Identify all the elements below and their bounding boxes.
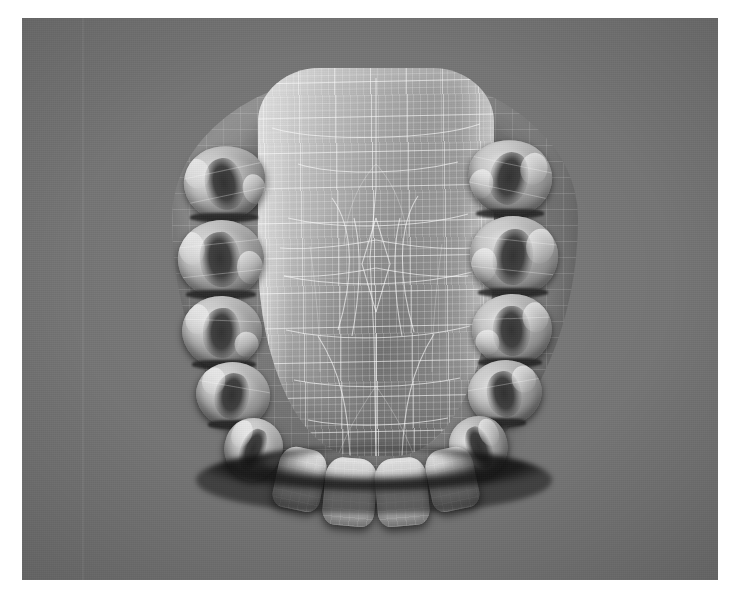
- occlusal-fossa: [198, 231, 243, 289]
- render-viewport[interactable]: [22, 18, 718, 580]
- occlusal-fossa: [201, 155, 249, 214]
- maxillary-arch-model[interactable]: [150, 50, 600, 520]
- palate-wireframe-contours: [258, 68, 494, 456]
- scan-seam-artifact: [82, 18, 84, 580]
- incisal-edge-shadow: [196, 446, 552, 514]
- cusp-highlight: [475, 329, 500, 356]
- hard-palate-surface[interactable]: [258, 68, 494, 456]
- page-root: [0, 0, 742, 598]
